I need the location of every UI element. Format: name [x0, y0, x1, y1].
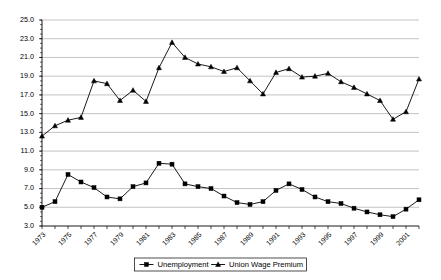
data-point: [352, 206, 356, 210]
y-axis-tick-label: 7.0: [24, 183, 34, 192]
y-axis-tick-label: 15.0: [20, 109, 34, 118]
x-axis-tick-label: 1973: [31, 231, 47, 247]
line-chart: 3.05.07.09.011.013.015.017.019.021.023.0…: [0, 0, 441, 280]
data-point: [53, 200, 57, 204]
y-axis-tick-label: 17.0: [20, 90, 34, 99]
data-point: [196, 185, 200, 189]
data-point: [339, 79, 344, 84]
data-point: [79, 180, 83, 184]
data-point: [417, 76, 422, 81]
data-point: [209, 187, 213, 191]
y-axis-tick-label: 13.0: [20, 127, 34, 136]
data-point: [105, 195, 109, 199]
data-point: [235, 65, 240, 70]
legend-label: Union Wage Premium: [229, 260, 303, 269]
y-axis-tick-label: 11.0: [21, 146, 34, 155]
data-point: [40, 205, 44, 209]
x-axis-tick-label: 1983: [161, 231, 177, 247]
y-axis-tick-label: 9.0: [24, 165, 34, 174]
x-axis-tick-label: 1979: [109, 231, 125, 247]
x-axis-tick-label: 1981: [135, 231, 151, 247]
x-axis-tick-label: 1987: [213, 231, 229, 247]
x-axis-tick-label: 1995: [317, 231, 333, 247]
data-point: [287, 66, 292, 71]
data-point: [170, 40, 175, 45]
chart-legend: UnemploymentUnion Wage Premium: [135, 258, 307, 271]
data-point: [378, 213, 382, 217]
data-point: [131, 185, 135, 189]
y-axis-tick-label: 3.0: [24, 221, 34, 230]
data-point: [157, 161, 161, 165]
data-point: [287, 182, 291, 186]
x-axis-tick-label: 1993: [291, 231, 307, 247]
x-axis-tick-label: 1989: [239, 231, 255, 247]
data-point: [196, 61, 201, 66]
data-series-group: [40, 40, 422, 219]
data-point: [365, 210, 369, 214]
series-polyline: [42, 42, 419, 136]
data-point: [300, 187, 304, 191]
data-point: [404, 109, 409, 114]
data-point: [261, 200, 265, 204]
x-axis-tick-label: 1977: [83, 231, 99, 247]
data-point: [326, 71, 331, 76]
data-point: [417, 198, 421, 202]
y-axis-labels-group: 3.05.07.09.011.013.015.017.019.021.023.0…: [20, 15, 34, 230]
data-point: [92, 186, 96, 190]
y-axis-tick-label: 25.0: [20, 15, 34, 24]
data-point: [79, 115, 84, 120]
x-axis-labels-group: 1973197519771979198119831985198719891991…: [31, 231, 411, 247]
data-point: [131, 88, 136, 93]
data-point: [248, 202, 252, 206]
y-axis-tick-label: 19.0: [20, 71, 34, 80]
legend-label: Unemployment: [158, 260, 210, 269]
data-point: [170, 162, 174, 166]
legend-item-union-wage-premium[interactable]: Union Wage Premium: [211, 260, 303, 269]
y-axis-tick-label: 21.0: [20, 52, 34, 61]
data-point: [404, 207, 408, 211]
data-point: [313, 195, 317, 199]
data-point: [92, 78, 97, 83]
data-point: [118, 197, 122, 201]
data-point: [339, 202, 343, 206]
chart-container: 3.05.07.09.011.013.015.017.019.021.023.0…: [0, 0, 441, 280]
data-point: [326, 200, 330, 204]
data-point: [391, 215, 395, 219]
legend-item-unemployment[interactable]: Unemployment: [140, 260, 210, 269]
x-axis-tick-label: 1999: [369, 231, 385, 247]
data-point: [144, 181, 148, 185]
data-point: [365, 91, 370, 96]
x-axis-tick-label: 1975: [57, 231, 73, 247]
x-axis-tick-label: 1991: [265, 231, 281, 247]
x-axis-tick-label: 1997: [343, 231, 359, 247]
series-polyline: [42, 163, 419, 216]
data-point: [183, 182, 187, 186]
data-point: [378, 98, 383, 103]
series-union-wage-premium: [40, 40, 422, 138]
x-axis-tick-label: 1985: [187, 231, 203, 247]
legend-marker-square: [145, 263, 149, 267]
data-point: [222, 194, 226, 198]
data-point: [157, 65, 162, 70]
y-axis-tick-label: 5.0: [24, 202, 34, 211]
data-point: [235, 201, 239, 205]
data-point: [274, 188, 278, 192]
y-axis-tick-label: 23.0: [20, 34, 34, 43]
x-axis-tick-label: 2001: [395, 231, 411, 247]
gridlines-group: [42, 20, 419, 207]
data-point: [66, 173, 70, 177]
